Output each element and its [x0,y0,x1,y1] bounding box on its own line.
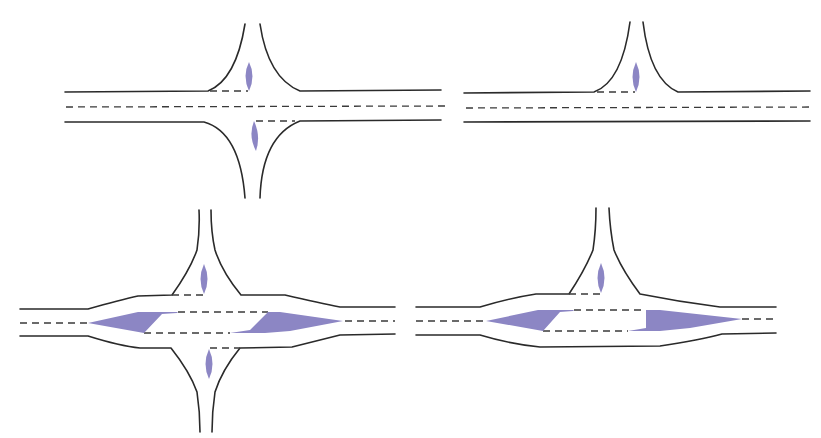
major-road-upper-edge-left [20,210,199,309]
major-road-upper-edge-right [211,210,395,307]
panel-t-junction-channelised [416,208,776,347]
ghost-island-east [628,310,742,331]
intersection-diagram [0,0,821,438]
ghost-island-east [230,312,343,333]
splitter-island-south [251,121,258,151]
centre-line [66,106,445,107]
major-road-lower-edge-left [65,122,245,198]
splitter-island-south [206,349,213,379]
splitter-island-north [633,62,640,92]
ghost-island-west [88,312,178,333]
major-road-lower-edge [464,121,810,122]
major-road-lower-edge [416,333,776,347]
splitter-island-north [201,264,208,294]
ghost-island-west [486,310,574,331]
panel-crossroads-channelised [20,210,395,432]
splitter-island-north [246,62,253,91]
major-road-upper-edge-left [416,208,596,307]
major-road-upper-edge-right [260,24,441,91]
major-road-upper-edge-left [464,22,630,93]
major-road-upper-edge-right [609,208,776,307]
major-road-upper-edge-left [65,24,245,92]
centre-line [466,107,811,108]
panel-crossroads-simple [65,24,445,198]
major-road-lower-edge-left [20,336,200,432]
splitter-island-north [598,263,605,293]
major-road-lower-edge-right [260,120,441,198]
major-road-upper-edge-right [643,22,810,92]
panel-t-junction-simple [464,22,811,122]
major-road-lower-edge-right [212,334,395,432]
